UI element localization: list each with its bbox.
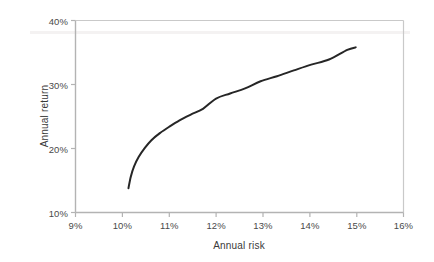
axis-frame [76,21,404,213]
y-tick-label-10: 10% [44,208,68,219]
x-tick-label-13: 13% [253,220,272,231]
x-tick-label-14: 14% [300,220,319,231]
x-tick-label-11: 11% [160,220,179,231]
data-series-line [128,47,355,188]
x-tick-label-12: 12% [206,220,225,231]
x-axis-title: Annual risk [213,240,265,251]
x-tick-label-16: 16% [394,220,413,231]
x-tick-label-15: 15% [347,220,366,231]
y-tick-label-40: 40% [44,16,68,27]
x-tick-label-9: 9% [69,220,83,231]
y-axis-title: Annual return [39,85,50,148]
x-tick-label-10: 10% [113,220,132,231]
chart-container: 40% 30% 20% 10% 9% 10% 11% 12% 13% 14% 1… [0,0,434,262]
